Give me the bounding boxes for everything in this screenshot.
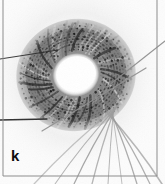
panel-label: k: [11, 148, 19, 163]
film-grain: [0, 0, 165, 184]
micrograph-image: [0, 0, 165, 184]
micrograph-figure-panel: k: [0, 0, 165, 184]
